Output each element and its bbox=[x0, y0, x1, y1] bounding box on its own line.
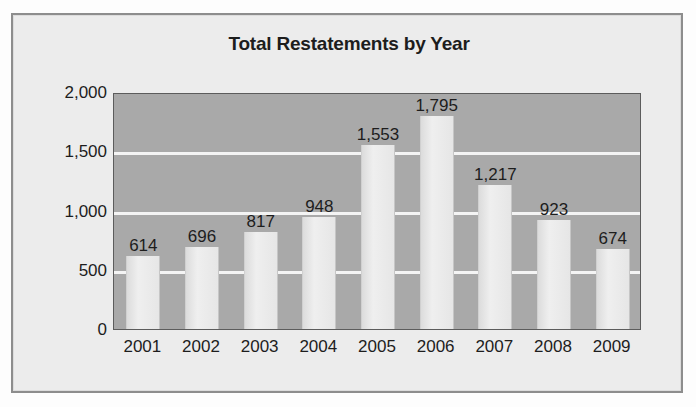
bar-value-label: 1,795 bbox=[397, 96, 477, 116]
x-tick-label: 2009 bbox=[582, 337, 642, 357]
chart-frame: Total Restatements by Year 05001,0001,50… bbox=[11, 13, 683, 393]
y-tick-label: 1,000 bbox=[21, 202, 107, 222]
bar bbox=[361, 145, 395, 329]
bar-value-label: 923 bbox=[514, 200, 594, 220]
bar bbox=[537, 220, 571, 329]
y-tick-label: 2,000 bbox=[21, 83, 107, 103]
bar bbox=[420, 116, 454, 329]
bar bbox=[596, 249, 630, 329]
x-tick-label: 2001 bbox=[112, 337, 172, 357]
y-tick-label: 1,500 bbox=[21, 142, 107, 162]
y-tick-label: 0 bbox=[21, 320, 107, 340]
x-tick-label: 2003 bbox=[230, 337, 290, 357]
y-tick-label: 500 bbox=[21, 261, 107, 281]
bar bbox=[478, 185, 512, 329]
bar bbox=[244, 232, 278, 329]
x-tick-label: 2008 bbox=[523, 337, 583, 357]
x-tick-label: 2005 bbox=[347, 337, 407, 357]
x-tick-label: 2006 bbox=[406, 337, 466, 357]
chart-figure: Total Restatements by Year 05001,0001,50… bbox=[0, 0, 696, 407]
bar-value-label: 1,553 bbox=[338, 125, 418, 145]
plot-area: 6146968179481,5531,7951,217923674 bbox=[113, 93, 641, 330]
bar bbox=[302, 217, 336, 329]
bar bbox=[126, 256, 160, 329]
bar-value-label: 948 bbox=[279, 197, 359, 217]
bar bbox=[185, 247, 219, 329]
x-tick-label: 2004 bbox=[288, 337, 348, 357]
x-axis: 200120022003200420052006200720082009 bbox=[113, 337, 641, 363]
chart-title: Total Restatements by Year bbox=[13, 33, 685, 55]
x-tick-label: 2007 bbox=[464, 337, 524, 357]
bar-value-label: 674 bbox=[573, 229, 653, 249]
y-axis: 05001,0001,5002,000 bbox=[13, 93, 107, 330]
x-tick-label: 2002 bbox=[171, 337, 231, 357]
bar-value-label: 1,217 bbox=[455, 165, 535, 185]
